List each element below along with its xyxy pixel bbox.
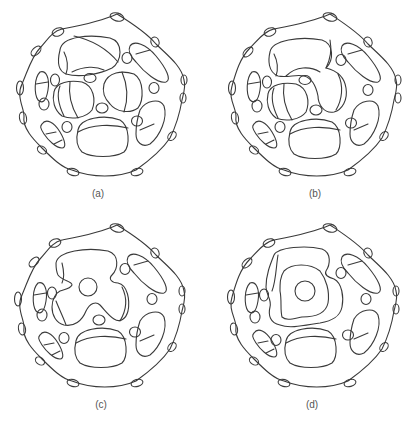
cage-diagram-d — [206, 211, 412, 422]
panel-label-b: (b) — [295, 188, 335, 199]
panel-label-d: (d) — [292, 399, 332, 410]
panel-c: (c) — [0, 211, 206, 422]
cage-diagram-b — [206, 0, 412, 211]
outer-boundary — [231, 225, 397, 387]
panel-label-a: (a) — [78, 188, 118, 199]
cage-diagram-c — [0, 211, 206, 422]
outer-boundary — [231, 14, 397, 176]
panel-label-c: (c) — [81, 399, 121, 410]
panel-a: (a) — [0, 0, 206, 211]
panel-b: (b) — [206, 0, 412, 211]
cage-diagram-a — [0, 0, 206, 211]
panel-d: (d) — [206, 211, 412, 422]
outer-boundary — [20, 14, 185, 176]
